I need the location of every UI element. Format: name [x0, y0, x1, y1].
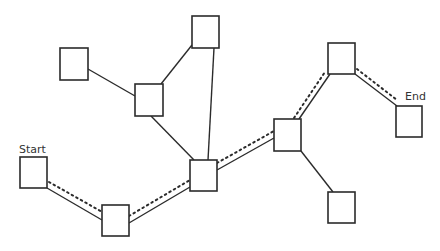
edge-n_center-n_right_mid — [217, 138, 274, 170]
node-n_bottom_right — [328, 192, 355, 223]
node-n_mid_left — [135, 84, 163, 116]
node-start — [20, 157, 47, 188]
edge-n_mid_left-n_top — [161, 45, 192, 84]
node-n_right_mid — [274, 119, 301, 151]
edge-start-n_bottom_left — [47, 188, 102, 220]
edge-n_top-n_center — [208, 48, 214, 160]
path-segment-2 — [217, 131, 274, 163]
path-segment-1 — [129, 180, 190, 216]
edge-n_top_right-end — [355, 74, 397, 106]
node-end — [396, 106, 422, 137]
start-label: Start — [19, 144, 46, 155]
edge-n_mid_left-n_center — [151, 116, 194, 160]
edge-n_right_mid-n_top_right — [299, 74, 330, 119]
path-segment-3 — [294, 72, 325, 118]
edge-n_right_mid-n_bottom_right — [301, 151, 333, 192]
path-segment-0 — [49, 182, 104, 213]
node-n_top_right — [328, 43, 355, 74]
node-n_top — [192, 16, 219, 48]
end-label: End — [405, 91, 426, 102]
path-segment-4 — [357, 69, 397, 100]
node-n_bottom_left — [102, 205, 129, 236]
node-n_top_left — [60, 48, 88, 80]
node-n_center — [190, 160, 217, 191]
edge-n_bottom_left-n_center — [129, 187, 190, 223]
edge-n_top_left-n_mid_left — [88, 69, 135, 96]
graph-diagram — [0, 0, 440, 251]
nodes-layer — [20, 16, 422, 236]
